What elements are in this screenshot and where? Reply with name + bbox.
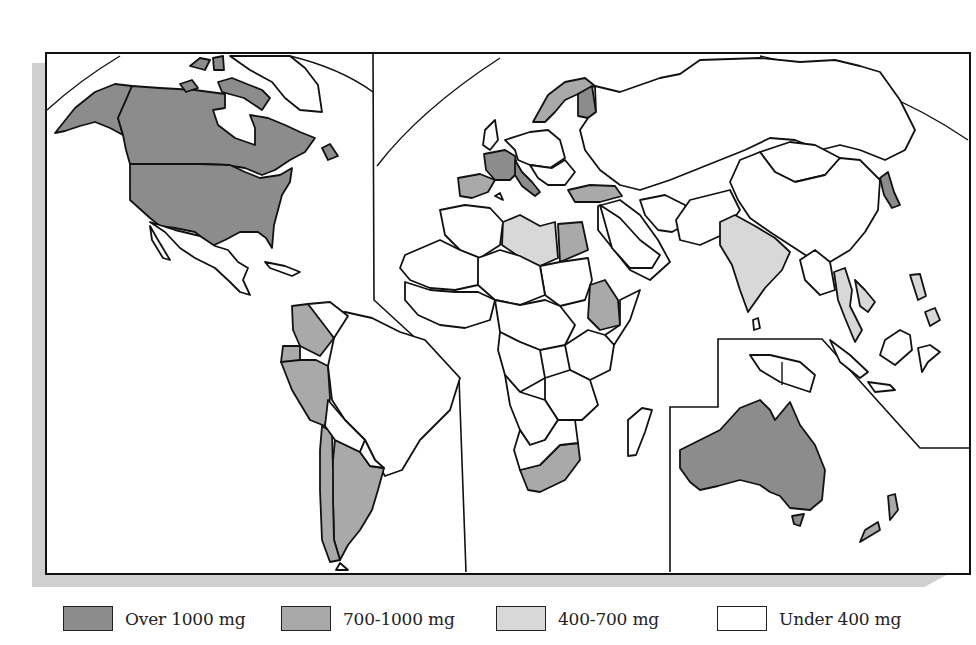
world-map xyxy=(0,0,976,645)
region-australia xyxy=(680,400,825,510)
region-ethiopia xyxy=(588,280,620,330)
region-new-zealand-north xyxy=(888,494,898,520)
region-new-zealand-south xyxy=(860,522,880,542)
legend-swatch-400-700 xyxy=(496,606,546,631)
region-egypt xyxy=(558,222,588,262)
legend-swatch-700-1000 xyxy=(281,606,331,631)
region-madagascar xyxy=(628,408,652,456)
region-peru xyxy=(281,360,330,426)
legend: Over 1000 mg 700-1000 mg 400-700 mg Unde… xyxy=(0,606,976,636)
oceania xyxy=(680,355,898,542)
legend-item-under-400: Under 400 mg xyxy=(717,606,901,631)
legend-item-over-1000: Over 1000 mg xyxy=(63,606,245,631)
region-turkey xyxy=(568,185,622,202)
region-france xyxy=(484,150,518,180)
region-thailand xyxy=(834,268,862,342)
legend-item-400-700: 400-700 mg xyxy=(496,606,659,631)
region-spain xyxy=(458,174,495,198)
legend-label: 400-700 mg xyxy=(558,609,659,629)
region-vietnam xyxy=(855,280,875,312)
region-japan xyxy=(880,172,900,208)
region-tasmania xyxy=(792,514,804,526)
legend-label: Under 400 mg xyxy=(779,609,901,629)
region-philippines xyxy=(910,274,926,300)
legend-swatch-under-400 xyxy=(717,606,767,631)
legend-label: Over 1000 mg xyxy=(125,609,245,629)
legend-swatch-over-1000 xyxy=(63,606,113,631)
legend-item-700-1000: 700-1000 mg xyxy=(281,606,455,631)
legend-label: 700-1000 mg xyxy=(343,609,455,629)
americas xyxy=(55,56,460,570)
map-figure: Over 1000 mg 700-1000 mg 400-700 mg Unde… xyxy=(0,0,976,645)
